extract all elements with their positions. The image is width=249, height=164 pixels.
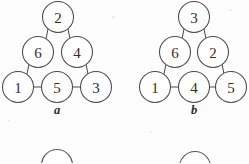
- partial-node-circle-right: [180, 152, 211, 164]
- node-value-right-middle: 2: [209, 45, 217, 61]
- figure-b: 3 6 2 1 4 5 b: [125, 0, 249, 122]
- node-value-bottom-left: 1: [151, 80, 159, 96]
- node-value-left-middle: 6: [34, 45, 42, 61]
- next-figure-partial: [0, 125, 249, 163]
- edge-apex-right: [68, 29, 70, 39]
- next-figure-cropped-circles: [0, 125, 249, 163]
- edge-left-bottomleft: [164, 64, 166, 74]
- edge-apex-left: [182, 29, 184, 39]
- node-value-bottom-middle: 4: [190, 80, 198, 96]
- edge-apex-left: [46, 29, 48, 39]
- node-value-apex: 3: [190, 10, 198, 26]
- edge-right-bottomright: [86, 64, 88, 74]
- nodes-group-b: 3 6 2 1 4 5: [140, 2, 247, 103]
- magic-triangle-diagram-b: 3 6 2 1 4 5 b: [125, 0, 249, 122]
- node-value-bottom-middle: 5: [53, 80, 61, 96]
- figure-label-a: a: [54, 103, 60, 117]
- node-value-bottom-right: 3: [92, 80, 100, 96]
- node-value-bottom-left: 1: [14, 80, 22, 96]
- partial-node-circle-left: [42, 150, 73, 164]
- node-value-bottom-right: 5: [227, 80, 235, 96]
- scanned-figure-page: 2 6 4 1 5 3 a: [0, 0, 249, 163]
- node-value-apex: 2: [54, 10, 62, 26]
- node-value-left-middle: 6: [171, 45, 179, 61]
- magic-triangle-diagram-a: 2 6 4 1 5 3 a: [0, 0, 124, 122]
- nodes-group-a: 2 6 4 1 5 3: [3, 2, 112, 103]
- edge-right-bottomright: [222, 64, 224, 74]
- node-value-right-middle: 4: [73, 45, 81, 61]
- edge-apex-right: [204, 29, 206, 39]
- edge-left-bottomleft: [27, 64, 29, 74]
- figure-label-b: b: [191, 103, 197, 117]
- figure-a: 2 6 4 1 5 3 a: [0, 0, 124, 122]
